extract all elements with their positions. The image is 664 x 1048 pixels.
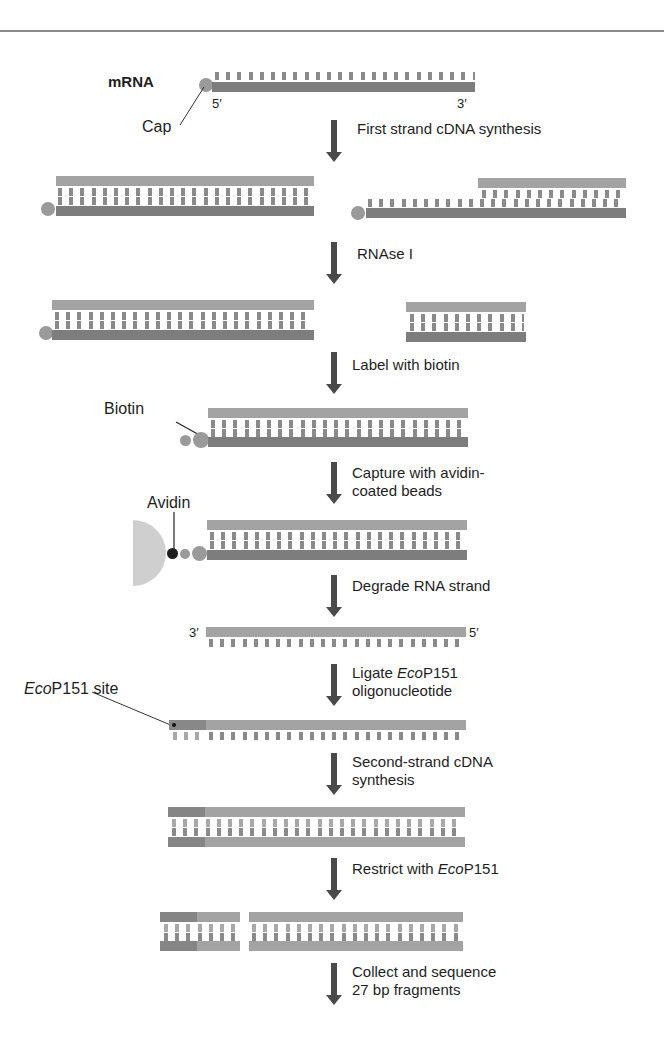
- cdna-strand-ligated: [206, 720, 466, 730]
- arrow-step-5: [326, 575, 342, 617]
- step-1-label: First strand cDNA synthesis: [357, 120, 541, 138]
- bases-captured-top: [210, 532, 466, 540]
- tag-fragment-top: [197, 912, 240, 922]
- arrow-step-7: [326, 753, 342, 795]
- step-6-label: Ligate EcoP151 oligonucleotide: [352, 664, 458, 700]
- remainder-top-strand: [249, 912, 463, 922]
- arrow-step-2: [326, 242, 342, 284]
- mrna-strand-left: [56, 206, 314, 216]
- remainder-bottom-strand: [249, 941, 463, 951]
- bases-biotin-top: [211, 420, 467, 428]
- ecop-site-dot: [172, 723, 176, 727]
- step-9-label: Collect and sequence27 bp fragments: [352, 963, 496, 999]
- bases-biotin-bottom: [211, 429, 467, 437]
- avidin-label: Avidin: [147, 494, 190, 512]
- cdna-top-strand: [205, 807, 465, 817]
- bases-capped-bottom: [55, 321, 313, 329]
- biotin-icon: [180, 435, 191, 446]
- bases-left-top: [58, 188, 314, 196]
- arrow-step-6: [326, 664, 342, 706]
- arrow-step-8: [326, 858, 342, 900]
- bases-ds-bottom: [172, 828, 462, 836]
- mrna-strand-captured: [207, 550, 467, 560]
- ecop-site-label: EcoP151 site: [24, 680, 118, 698]
- ss-three-prime-label: 3′: [189, 624, 199, 642]
- bases-ligated: [209, 732, 465, 740]
- bases-oligo: [173, 732, 206, 740]
- bases-tag-top: [164, 924, 240, 932]
- bases-uncapped-bottom: [410, 323, 524, 331]
- arrow-step-9: [326, 963, 342, 1005]
- tag-fragment-top-oligo: [160, 912, 197, 922]
- cdna-single-strand: [206, 627, 466, 637]
- tag-fragment-bottom-oligo: [160, 941, 197, 951]
- cdna-bottom-strand: [205, 837, 465, 847]
- oligo-bottom-segment: [168, 837, 205, 847]
- bases-remainder-top: [252, 924, 462, 932]
- mrna-strand-right: [366, 208, 626, 218]
- cdna-strand-uncapped: [406, 302, 526, 312]
- bases-uncapped-top: [410, 314, 524, 322]
- cdna-strand-biotin: [208, 408, 468, 418]
- step-2-label: RNAse I: [357, 245, 413, 263]
- cdna-strand-left: [56, 176, 314, 186]
- ss-five-prime-label: 5′: [469, 624, 479, 642]
- cap-icon-right: [351, 206, 365, 220]
- tag-fragment-bottom: [197, 941, 240, 951]
- bases-single-strand: [209, 639, 465, 647]
- cap-icon-left: [41, 202, 55, 216]
- bases-captured-bottom: [210, 541, 466, 549]
- step-8-label: Restrict with EcoP151: [352, 860, 499, 878]
- avidin-icon: [167, 548, 178, 559]
- mrna-strand-biotin: [208, 437, 468, 447]
- step-5-label: Degrade RNA strand: [352, 577, 490, 595]
- step-4-label: Capture with avidin-coated beads: [352, 464, 485, 500]
- biotin-icon-bound: [180, 549, 190, 559]
- bases-remainder-bottom: [252, 933, 462, 941]
- cdna-strand-capped: [52, 300, 314, 310]
- bases-right-single: [368, 199, 626, 207]
- step-7-label: Second-strand cDNAsynthesis: [352, 753, 493, 789]
- biotin-label: Biotin: [104, 400, 144, 418]
- bases-capped-top: [55, 312, 313, 320]
- mrna-strand-uncapped: [406, 332, 526, 342]
- mrna-strand-capped: [52, 330, 314, 340]
- bases-ds-top: [172, 819, 462, 827]
- bases-left-bottom: [58, 197, 314, 205]
- bases-right-paired: [482, 190, 626, 198]
- step-3-label: Label with biotin: [352, 356, 460, 374]
- bases-tag-bottom: [164, 933, 240, 941]
- cap-icon-biotin: [193, 432, 209, 448]
- cdna-strand-partial: [478, 178, 626, 188]
- cap-icon-capped: [39, 326, 53, 340]
- oligo-top-segment: [168, 807, 205, 817]
- arrow-step-4: [326, 462, 342, 504]
- cdna-strand-captured: [207, 520, 467, 530]
- arrow-step-3: [326, 352, 342, 394]
- cap-icon-bound: [192, 546, 207, 561]
- arrow-step-1: [326, 120, 342, 162]
